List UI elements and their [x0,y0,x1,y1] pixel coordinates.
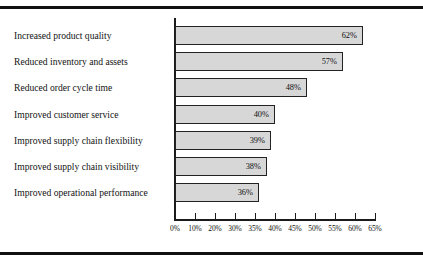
bar: 38% [175,157,267,176]
bar-row: Improved operational performance36% [0,183,423,202]
bar-row: Reduced inventory and assets57% [0,52,423,71]
category-label: Reduced inventory and assets [14,52,128,71]
x-tick-mark [335,213,336,221]
x-tick-mark [355,213,356,221]
x-tick-mark [195,213,196,221]
plot-area: 0%10%20%30%35%40%45%50%55%60%65% Increas… [0,0,423,266]
bar-value-label: 39% [250,132,265,149]
x-tick-mark [175,213,176,221]
x-tick-mark [295,213,296,221]
category-label: Improved operational performance [14,183,148,202]
bar: 57% [175,52,343,71]
bar-value-label: 40% [254,106,269,123]
category-label: Reduced order cycle time [14,78,112,97]
bar-row: Improved customer service40% [0,105,423,124]
bar: 39% [175,131,271,150]
x-tick-label: 65% [363,224,387,233]
x-tick-mark [315,213,316,221]
bar-value-label: 36% [238,184,253,201]
x-tick-mark [375,213,376,221]
bar-value-label: 38% [246,158,261,175]
bar-row: Improved supply chain flexibility39% [0,131,423,150]
bar: 62% [175,26,363,45]
chart-figure: 0%10%20%30%35%40%45%50%55%60%65% Increas… [0,0,423,266]
bar: 36% [175,183,259,202]
bar-row: Reduced order cycle time48% [0,78,423,97]
bar-value-label: 48% [286,79,301,96]
bar-row: Improved supply chain visibility38% [0,157,423,176]
bar-value-label: 62% [342,27,357,44]
category-label: Improved supply chain visibility [14,157,139,176]
bar-row: Increased product quality62% [0,26,423,45]
bar: 48% [175,78,307,97]
category-label: Improved supply chain flexibility [14,131,143,150]
x-tick-mark [235,213,236,221]
category-label: Improved customer service [14,105,118,124]
x-tick-mark [275,213,276,221]
x-tick-mark [255,213,256,221]
bar: 40% [175,105,275,124]
bar-value-label: 57% [322,53,337,70]
category-label: Increased product quality [14,26,112,45]
x-tick-mark [215,213,216,221]
